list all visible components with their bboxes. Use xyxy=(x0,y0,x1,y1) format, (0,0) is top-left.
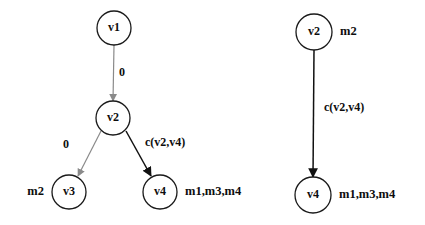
right-graph-panel: c(v2,v4) xyxy=(313,50,364,177)
edge-v2-to-v3: 0 xyxy=(63,131,101,176)
edge-v1-to-v2: 0 xyxy=(113,45,125,101)
node-side-label-l-v4: m1,m3,m4 xyxy=(185,184,242,198)
edge-v2-to-v4: c(v2,v4) xyxy=(313,50,364,177)
edge-arrow-v2-v3 xyxy=(78,131,101,176)
node-label-l-v3: v3 xyxy=(63,184,75,198)
node-side-label-r-v2: m2 xyxy=(340,24,357,38)
graph-node-r-v4[interactable]: v4m1,m3,m4 xyxy=(295,177,396,213)
graph-node-l-v3[interactable]: v3m2 xyxy=(27,175,86,209)
node-label-l-v2: v2 xyxy=(107,110,119,124)
node-label-l-v4: v4 xyxy=(154,184,166,198)
edge-arrow-v2-v4 xyxy=(313,50,314,177)
graph-canvas: 00c(v2,v4)c(v2,v4) v1v2v3m2v4m1,m3,m4v2m… xyxy=(0,0,425,225)
left-graph-panel-nodes: v1v2v3m2v4m1,m3,m4 xyxy=(27,11,242,209)
graph-node-l-v4[interactable]: v4m1,m3,m4 xyxy=(143,175,242,209)
node-label-r-v2: v2 xyxy=(308,24,320,38)
edge-arrow-v1-v2 xyxy=(113,45,114,101)
edge-label-v2-v4: c(v2,v4) xyxy=(324,100,364,114)
edge-label-v2-v3: 0 xyxy=(63,137,69,151)
node-label-l-v1: v1 xyxy=(108,20,120,34)
graph-node-l-v1[interactable]: v1 xyxy=(97,11,131,45)
edge-label-v1-v2: 0 xyxy=(119,65,125,79)
graph-figure: 00c(v2,v4)c(v2,v4) v1v2v3m2v4m1,m3,m4v2m… xyxy=(0,0,425,225)
graph-node-r-v2[interactable]: v2m2 xyxy=(296,14,357,50)
node-label-r-v4: v4 xyxy=(307,187,319,201)
edge-v2-to-v4: c(v2,v4) xyxy=(126,131,185,176)
edge-label-v2-v4: c(v2,v4) xyxy=(145,135,185,149)
node-side-label-r-v4: m1,m3,m4 xyxy=(339,187,396,201)
node-side-label-l-v3: m2 xyxy=(27,184,44,198)
graph-node-l-v2[interactable]: v2 xyxy=(96,101,130,135)
